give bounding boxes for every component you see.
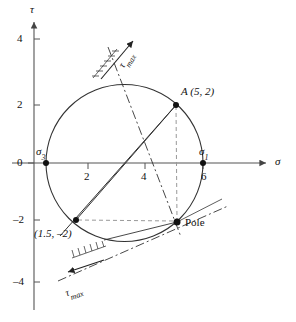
xtick-label-4: 4 xyxy=(141,171,147,182)
ray-pole-lower-left xyxy=(104,222,177,240)
marker-pole xyxy=(174,219,181,226)
ytick-label-neg4: –4 xyxy=(13,276,24,287)
label-pole: Pole xyxy=(185,217,205,228)
sigma3-subscript: 3 xyxy=(41,153,45,162)
ytick-label-2: 2 xyxy=(17,99,23,110)
marker-point-B xyxy=(73,217,79,223)
label-sigma3: σ3 xyxy=(36,146,45,160)
marker-point-A xyxy=(173,102,179,108)
ytick-label-4: 4 xyxy=(17,33,23,44)
sigma1-subscript: 1 xyxy=(204,153,208,162)
label-tau-max-lower: τmax xyxy=(64,283,84,301)
axis-x xyxy=(12,163,266,169)
axis-label-tau: τ xyxy=(30,4,34,15)
label-sigma1: σ1 xyxy=(199,146,208,160)
axis-y xyxy=(28,22,40,310)
label-point-B: (1.5, –2) xyxy=(34,228,72,239)
xtick-label-2: 2 xyxy=(84,171,90,182)
mohr-circle-figure: τ σ 2 4 6 4 2 0 –2 –4 σ3 σ1 A (5, 2) (1.… xyxy=(0,0,296,322)
tau-max-lower-arrow xyxy=(68,241,106,272)
xtick-label-6: 6 xyxy=(201,171,207,182)
ytick-label-0: 0 xyxy=(17,157,23,168)
dashed-horizontal-B-pole xyxy=(78,220,175,221)
line-B-to-A xyxy=(76,104,177,220)
axis-label-sigma: σ xyxy=(275,156,280,167)
dashed-vertical-A-pole xyxy=(176,106,177,221)
label-point-A: A (5, 2) xyxy=(181,86,214,97)
ytick-label-neg2: –2 xyxy=(13,214,24,225)
